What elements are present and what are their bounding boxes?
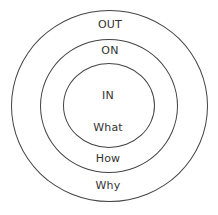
inner-bottom-label: What: [93, 121, 123, 134]
outer-top-label: OUT: [98, 18, 122, 31]
outer-bottom-label: Why: [96, 179, 121, 192]
middle-top-label: ON: [101, 44, 118, 57]
middle-bottom-label: How: [96, 152, 121, 165]
inner-circle: [63, 63, 155, 148]
inner-top-label: IN: [102, 89, 114, 102]
